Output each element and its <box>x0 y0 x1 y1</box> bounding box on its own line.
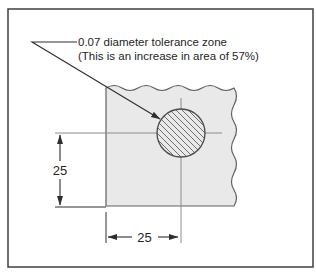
figure-canvas: 0.07 diameter tolerance zone (This is an… <box>0 0 316 277</box>
tolerance-zone-diagram: 0.07 diameter tolerance zone (This is an… <box>0 0 316 277</box>
horizontal-dimension-label: 25 <box>137 230 151 245</box>
caption-line-1: 0.07 diameter tolerance zone <box>78 36 227 48</box>
vertical-dimension-label: 25 <box>53 163 67 178</box>
tolerance-zone-circle <box>157 109 205 157</box>
caption-line-2: (This is an increase in area of 57%) <box>78 50 259 62</box>
